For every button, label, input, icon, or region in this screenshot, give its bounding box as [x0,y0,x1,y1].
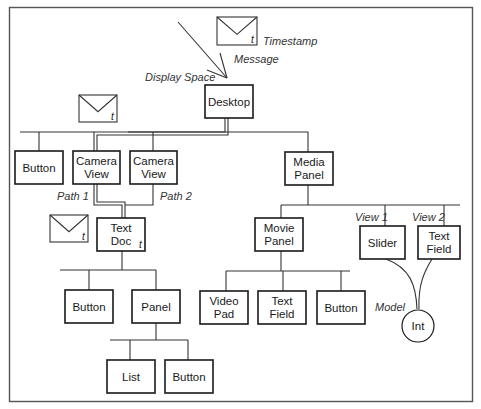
annotation-view-2: View 2 [412,211,445,223]
node-desktop[interactable]: Desktop [205,85,253,118]
envelope-icon: t [217,17,257,45]
diagram-canvas: DesktopButtonCameraViewCameraViewMediaPa… [0,0,481,409]
node-label: Field [270,308,295,320]
node-button-4[interactable]: Button [165,360,213,393]
node-label: View [141,168,166,180]
node-label: Button [324,302,357,314]
node-label: Button [72,301,105,313]
model-label: Int [412,320,426,332]
node-slider[interactable]: Slider [360,226,405,259]
envelopes-layer: ttt [50,17,257,242]
annotation-model: Model [375,301,406,313]
node-list[interactable]: List [107,360,155,393]
node-label: View [84,168,109,180]
node-label: Camera [76,155,118,167]
node-label: Slider [368,237,398,249]
node-label: Doc [111,235,132,247]
node-camera-view-1[interactable]: CameraView [73,151,120,184]
node-label: Text [110,222,132,234]
node-label: Desktop [208,96,250,108]
scene-graph-diagram: DesktopButtonCameraViewCameraViewMediaPa… [0,0,481,409]
node-label: Text [271,295,293,307]
node-int[interactable]: Int [402,310,434,342]
node-label: Media [293,156,325,168]
node-video-pad[interactable]: VideoPad [200,291,248,324]
node-button-3[interactable]: Button [317,291,365,324]
annotation-message: Message [234,53,279,65]
node-camera-view-2[interactable]: CameraView [130,151,177,184]
node-label: Pad [214,308,234,320]
node-media-panel[interactable]: MediaPanel [285,152,333,185]
node-button-1[interactable]: Button [15,151,63,184]
node-label: Panel [294,169,323,181]
node-label: Panel [141,301,170,313]
edges-desktop [20,118,308,152]
node-label: Button [22,162,55,174]
node-movie-panel[interactable]: MoviePanel [255,218,303,251]
node-label: Camera [133,155,175,167]
node-label: Panel [264,235,293,247]
annotation-timestamp: Timestamp [263,35,317,47]
node-panel[interactable]: Panel [132,290,180,323]
node-text-doc[interactable]: TextDoct [97,218,145,251]
node-label: Movie [264,222,295,234]
envelope-icon: t [79,95,117,122]
node-label: Video [209,295,238,307]
node-label: Text [428,230,450,242]
envelope-icon: t [50,215,88,242]
node-button-2[interactable]: Button [65,290,113,323]
node-label: List [122,371,141,383]
annotation-path-1: Path 1 [57,190,89,202]
node-label: Button [172,371,205,383]
annotation-view-1: View 1 [355,211,388,223]
annotation-path-2: Path 2 [160,190,192,202]
annotation-display-space: Display Space [145,71,215,83]
node-text-field-2[interactable]: TextField [258,291,306,324]
edges-camera-to-textdoc [94,184,153,218]
model-layer: Int [402,310,434,342]
node-text-field-1[interactable]: TextField [418,226,460,259]
node-label: Field [427,243,452,255]
